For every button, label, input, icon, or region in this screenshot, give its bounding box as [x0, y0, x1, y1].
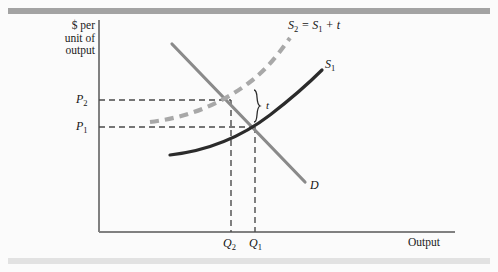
- y-axis-label-line3: output: [65, 44, 95, 57]
- figure-root: $ per unit of output P2 P1 Q2 Q1 S2 = S1…: [0, 0, 498, 272]
- supply-original-label-sub: 1: [331, 63, 335, 73]
- supply-shifted-label-sub2: 1: [318, 24, 322, 34]
- supply-shifted-label: S2 = S1 + t: [288, 18, 340, 33]
- y-axis-label-line1: $ per: [65, 19, 95, 32]
- quantity-tick-q1-sub: 1: [258, 242, 262, 252]
- y-axis-label-line2: unit of: [65, 32, 95, 45]
- price-tick-p2-sub: 2: [83, 98, 87, 108]
- quantity-tick-q1-letter: Q: [249, 236, 258, 250]
- quantity-tick-q1: Q1: [249, 236, 262, 251]
- supply-shifted-label-tail: + t: [323, 18, 340, 32]
- tax-wedge-label: t: [266, 99, 269, 111]
- price-tick-p1-sub: 1: [83, 125, 87, 135]
- x-axis-label: Output: [408, 236, 440, 248]
- y-axis-label: $ per unit of output: [65, 19, 95, 57]
- demand-curve: [172, 44, 305, 182]
- quantity-tick-q2-letter: Q: [223, 236, 232, 250]
- demand-label: D: [310, 178, 319, 193]
- supply-shifted-label-sub: 2: [294, 24, 298, 34]
- quantity-tick-q2: Q2: [223, 236, 236, 251]
- price-tick-p2: P2: [76, 92, 88, 107]
- tax-wedge-brace: [254, 90, 260, 122]
- price-tick-p1: P1: [76, 119, 88, 134]
- quantity-tick-q2-sub: 2: [232, 242, 236, 252]
- supply-shifted-label-eq: = S: [298, 18, 318, 32]
- supply-original-label: S1: [325, 57, 335, 72]
